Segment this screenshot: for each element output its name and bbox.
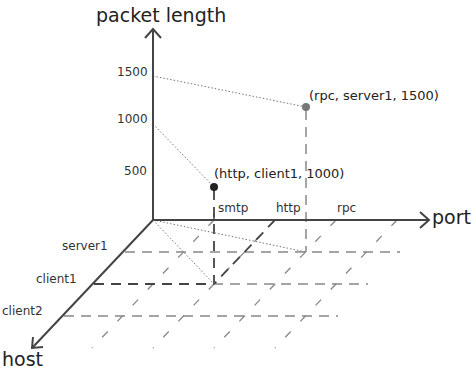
point-http-client1[interactable] [210, 183, 218, 191]
point-label-http: (http, client1, 1000) [214, 167, 344, 180]
x-axis-title: port [432, 208, 471, 227]
y-tick-1500: 1500 [117, 66, 148, 78]
z-tick-server1: server1 [62, 240, 108, 252]
y-axis-title: packet length [96, 6, 226, 25]
x-tick-rpc: rpc [337, 202, 356, 214]
y-tick-1000: 1000 [117, 113, 148, 125]
z-tick-client2: client2 [2, 305, 43, 317]
z-axis-title: host [2, 350, 43, 369]
point-label-rpc: (rpc, server1, 1500) [309, 89, 439, 102]
x-tick-http: http [276, 202, 301, 214]
point-rpc-server1[interactable] [302, 103, 310, 111]
x-tick-smtp: smtp [218, 202, 248, 214]
axes [32, 29, 429, 348]
y-tick-500: 500 [124, 165, 147, 177]
diagram-canvas [0, 0, 476, 374]
z-tick-client1: client1 [36, 273, 77, 285]
